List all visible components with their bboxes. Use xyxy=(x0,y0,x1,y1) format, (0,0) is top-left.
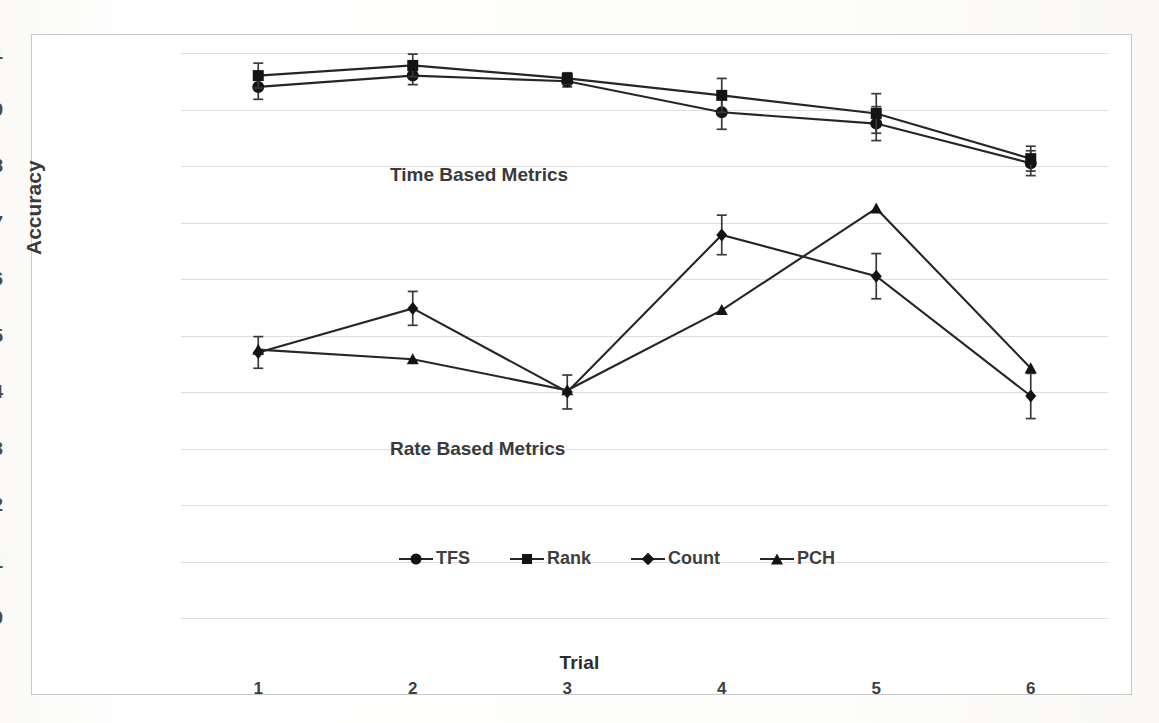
gridline xyxy=(181,110,1108,111)
gridline xyxy=(181,449,1108,450)
legend-item-rank[interactable]: Rank xyxy=(510,548,591,569)
legend-item-pch[interactable]: PCH xyxy=(760,548,835,569)
y-tick-label: 0.8 xyxy=(0,155,3,177)
legend-line-swatch xyxy=(399,558,433,560)
y-tick-label: 0.1 xyxy=(0,551,3,573)
y-axis-title: Accuracy xyxy=(22,160,46,255)
chart-legend: TFSRankCountPCH xyxy=(399,548,835,569)
y-tick-label: 0.7 xyxy=(0,212,3,234)
square-marker-icon xyxy=(522,554,532,564)
legend-line-swatch xyxy=(760,558,794,560)
x-tick-label: 2 xyxy=(383,679,443,699)
gridline xyxy=(181,336,1108,337)
legend-label: Count xyxy=(668,548,720,569)
annotation-time-based: Time Based Metrics xyxy=(390,164,568,186)
gridline xyxy=(181,223,1108,224)
y-tick-label: 0.2 xyxy=(0,494,3,516)
y-tick-label: 0.4 xyxy=(0,381,3,403)
chart-page: Accuracy Trial 10.90.80.70.60.50.40.30.2… xyxy=(0,0,1159,723)
legend-item-count[interactable]: Count xyxy=(631,548,720,569)
diamond-marker-icon xyxy=(642,552,655,565)
legend-label: PCH xyxy=(797,548,835,569)
y-tick-label: 0.6 xyxy=(0,268,3,290)
legend-label: Rank xyxy=(547,548,591,569)
plot-area: 10.90.80.70.60.50.40.30.20.10 123456 Tim… xyxy=(181,53,1108,618)
gridline xyxy=(181,166,1108,167)
x-tick-label: 3 xyxy=(537,679,597,699)
gridline xyxy=(181,505,1108,506)
y-tick-label: 0.5 xyxy=(0,325,3,347)
triangle-marker-icon xyxy=(771,553,783,564)
gridline xyxy=(181,392,1108,393)
x-tick-label: 6 xyxy=(1001,679,1061,699)
y-tick-label: 1 xyxy=(0,42,3,64)
y-tick-label: 0.3 xyxy=(0,438,3,460)
gridline xyxy=(181,53,1108,54)
annotation-rate-based: Rate Based Metrics xyxy=(390,438,565,460)
gridline xyxy=(181,618,1108,619)
y-tick-label: 0.9 xyxy=(0,99,3,121)
x-tick-label: 4 xyxy=(692,679,752,699)
circle-marker-icon xyxy=(411,553,422,564)
legend-line-swatch xyxy=(510,558,544,560)
x-axis-title: Trial xyxy=(0,652,1159,674)
legend-item-tfs[interactable]: TFS xyxy=(399,548,470,569)
y-tick-label: 0 xyxy=(0,607,3,629)
legend-label: TFS xyxy=(436,548,470,569)
x-tick-label: 1 xyxy=(228,679,288,699)
x-tick-label: 5 xyxy=(846,679,906,699)
legend-line-swatch xyxy=(631,558,665,560)
gridline xyxy=(181,279,1108,280)
